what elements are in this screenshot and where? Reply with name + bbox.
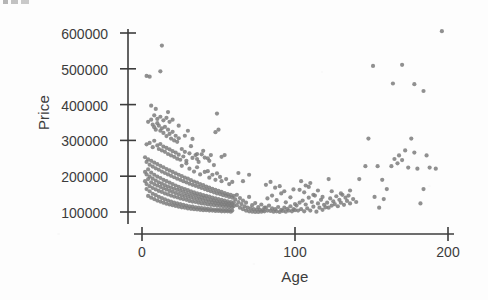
x-tick-label-0: 0 bbox=[112, 244, 172, 260]
x-axis-title: Age bbox=[245, 268, 345, 285]
y-tick-label-600000: 600000 bbox=[34, 26, 108, 42]
scatter-plot-figure: 600000 500000 400000 300000 200000 10000… bbox=[0, 0, 488, 300]
x-tick-label-200: 200 bbox=[418, 244, 478, 260]
y-tick-label-100000: 100000 bbox=[34, 205, 108, 221]
x-tick-label-100: 100 bbox=[265, 244, 325, 260]
y-axis-title: Price bbox=[35, 68, 52, 158]
plot-canvas bbox=[0, 0, 488, 300]
data-markers-layer bbox=[143, 29, 444, 214]
y-tick-label-200000: 200000 bbox=[34, 169, 108, 185]
